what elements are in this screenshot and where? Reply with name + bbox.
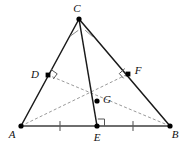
vertex-label-G: G [103,93,111,105]
segment-cevian-CE [79,19,97,126]
geometry-figure: A B C D F G E [0,0,187,144]
point-dot-A [18,123,23,128]
segment-side-AC [21,19,79,126]
vertex-label-A: A [8,128,16,140]
vertex-label-E: E [93,131,101,143]
point-dot-F [126,72,131,77]
point-dot-D [46,73,51,78]
segment-cevian-AF [21,74,128,126]
point-dot-G [94,98,99,103]
right-angle-at-D-icon [51,70,57,80]
segment-side-BC [79,19,170,126]
geometry-canvas: A B C D F G E [0,0,187,144]
point-dot-C [76,16,81,21]
vertex-label-D: D [30,68,39,80]
point-dot-E [94,123,99,128]
vertex-label-F: F [134,64,142,76]
vertex-label-C: C [73,2,81,14]
vertex-label-B: B [172,128,179,140]
